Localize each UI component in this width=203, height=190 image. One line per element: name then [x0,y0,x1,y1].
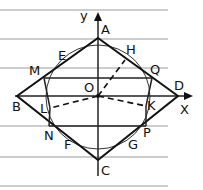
label-q: Q [150,62,160,77]
label-g: G [128,137,138,152]
label-m: M [29,63,40,78]
y-axis-arrow-icon [94,12,102,21]
x-axis-arrow-icon [184,92,193,100]
x-axis-label: X [180,102,189,117]
label-b: B [12,99,21,114]
label-p: P [143,125,151,140]
dashed-ol [50,96,98,108]
label-h: H [126,42,136,57]
origin-point [96,94,100,98]
label-k: K [147,98,156,113]
label-a: A [101,22,110,37]
label-f: F [64,137,71,152]
segment-ln [49,108,50,126]
geometry-diagram: y X O A B C D E H M Q L K N P F G [0,0,203,190]
label-l: L [40,101,48,116]
label-c: C [101,163,110,178]
label-d: D [174,78,184,93]
y-axis-label: y [80,8,88,23]
dashed-ok [98,96,146,106]
label-e: E [58,48,66,63]
ruled-lines [0,10,168,186]
label-n: N [44,128,54,143]
origin-label: O [84,80,94,95]
